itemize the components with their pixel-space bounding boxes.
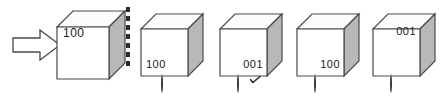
reference-cube-label: 100 xyxy=(63,27,85,39)
option-radio-b[interactable] xyxy=(237,75,261,95)
option-cube-c[interactable]: 100 xyxy=(295,12,361,78)
cube-shape xyxy=(371,12,437,78)
check-mark-icon xyxy=(250,73,261,84)
option-radio-d[interactable] xyxy=(390,75,414,95)
radio-circle-icon[interactable] xyxy=(314,74,316,93)
option-cube-d[interactable]: 001 xyxy=(371,12,437,78)
reference-cube: 100 xyxy=(54,8,128,82)
radio-circle-icon[interactable] xyxy=(390,74,392,93)
radio-circle-icon[interactable] xyxy=(237,74,239,93)
figure-canvas: 100 100 001 xyxy=(0,0,445,109)
option-cube-b[interactable]: 001 xyxy=(218,12,284,78)
option-cube-a[interactable]: 100 xyxy=(139,12,205,78)
radio-circle-icon[interactable] xyxy=(161,74,163,93)
option-radio-a[interactable] xyxy=(161,75,185,95)
cube-shape xyxy=(54,8,128,82)
option-radio-c[interactable] xyxy=(314,75,338,95)
option-cube-label: 100 xyxy=(320,59,340,70)
option-cube-label: 100 xyxy=(146,59,166,70)
option-cube-label: 001 xyxy=(396,26,416,37)
option-cube-label: 001 xyxy=(243,59,263,70)
vertical-dashed-divider xyxy=(126,7,130,70)
